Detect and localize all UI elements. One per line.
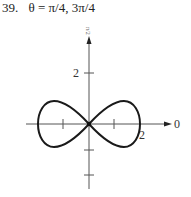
polar-graph: π/2 2 0 2 [0,0,191,197]
vertical-tick-label: 2 [73,66,79,80]
polar-axis-arrow-icon [164,122,172,127]
polar-axis-label: 0 [174,117,180,131]
pole-point [87,122,91,126]
vertical-axis-arrow-icon [87,36,92,44]
vertical-axis-label: π/2 [85,27,91,35]
